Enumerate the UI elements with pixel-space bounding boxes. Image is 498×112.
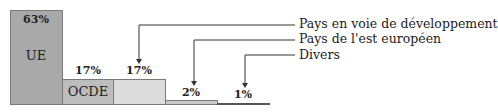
callout-label-divers: Divers <box>299 48 340 62</box>
callout-label-pays-de-l-est-europeen: Pays de l'est européen <box>299 32 441 46</box>
callout-label-pays-en-voie-de-developpement: Pays en voie de développement <box>299 17 498 31</box>
